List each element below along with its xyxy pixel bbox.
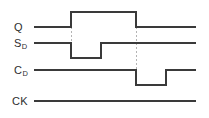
- signal-label-q: Q: [14, 22, 23, 34]
- signal-label-ck: CK: [12, 96, 28, 108]
- signal-label-ck-main: CK: [12, 95, 28, 107]
- signal-label-cd-main: C: [14, 64, 22, 76]
- waveform-sd: [34, 43, 196, 58]
- signal-label-q-main: Q: [14, 21, 23, 33]
- waveform-cd: [34, 70, 196, 85]
- signal-label-cd-sub: D: [22, 69, 28, 78]
- waveform-q: [34, 12, 196, 27]
- timing-waveform-canvas: [0, 0, 209, 118]
- timing-diagram: Q SD CD CK: [0, 0, 209, 118]
- signal-label-sd: SD: [14, 38, 27, 50]
- signal-label-sd-sub: D: [22, 42, 28, 51]
- signal-label-sd-main: S: [14, 37, 22, 49]
- signal-label-cd: CD: [14, 65, 28, 77]
